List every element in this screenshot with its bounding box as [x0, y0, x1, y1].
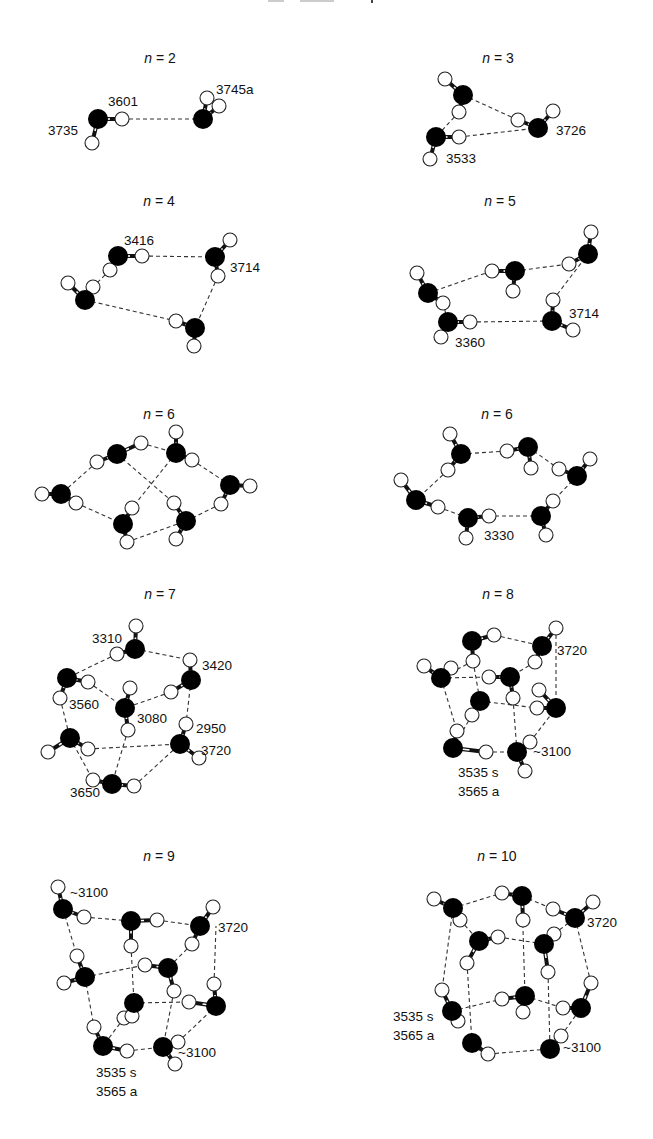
hydrogen-atom: [124, 939, 138, 953]
hydrogen-atom: [35, 487, 49, 501]
oxygen-atom: [470, 691, 490, 711]
hydrogen-atom: [150, 913, 164, 927]
hydrogen-atom: [182, 995, 196, 1009]
hydrogen-atom: [185, 937, 199, 951]
oxygen-atom: [571, 998, 591, 1018]
hydrogen-atom: [434, 330, 448, 344]
oxygen-atom: [565, 908, 585, 928]
frequency-label: 3714: [230, 260, 261, 275]
oxygen-atom: [426, 127, 446, 147]
hydrogen-atom: [495, 886, 509, 900]
oxygen-atom: [515, 986, 535, 1006]
hydrogen-atom: [516, 913, 530, 927]
hydrogen-atom: [200, 91, 214, 105]
oxygen-atom: [518, 437, 538, 457]
hydrogen-atom: [586, 895, 600, 909]
oxygen-atom: [107, 444, 127, 464]
frequency-label: ~3100: [563, 1040, 601, 1055]
hydrogen-atom: [552, 462, 566, 476]
frequency-label: 3720: [201, 743, 231, 758]
oxygen-atom: [567, 466, 587, 486]
frequency-label: 3601: [108, 94, 138, 109]
hydrogen-atom: [541, 965, 555, 979]
hydrogen-atom: [546, 293, 560, 307]
hydrogen-atom: [70, 949, 84, 963]
frequency-label: 3535 s: [96, 1065, 137, 1080]
frequency-label: 3726: [556, 123, 586, 138]
hydrogen-atom: [452, 105, 466, 119]
hydrogen-atom: [214, 497, 228, 511]
frequency-label: 3745a: [216, 82, 254, 97]
frequency-label: 3560: [69, 697, 99, 712]
hydrogen-atom: [135, 249, 149, 263]
hydrogen-atom: [243, 479, 257, 493]
hydrogen-atom: [511, 113, 525, 127]
hydrogen-atom: [206, 900, 220, 914]
hydrogen-atom: [506, 691, 520, 705]
hydrogen-atom: [546, 902, 560, 916]
panel-title: n = 9: [143, 848, 175, 864]
hydrogen-atom: [410, 266, 424, 280]
oxygen-atom: [451, 444, 471, 464]
hydrogen-atom: [435, 983, 449, 997]
frequency-label: 3720: [218, 920, 248, 935]
frequency-label: 3735: [48, 123, 78, 138]
frequency-label: 3565 a: [458, 784, 500, 799]
oxygen-atom: [528, 118, 548, 138]
oxygen-atom: [153, 1037, 173, 1057]
hydrogen-atom: [185, 453, 199, 467]
hydrogen-atom: [539, 528, 553, 542]
hydrogen-atom: [81, 742, 95, 756]
hydrogen-atom: [417, 659, 431, 673]
hydrogen-atom: [463, 315, 477, 329]
hydrogen-atom: [528, 655, 542, 669]
oxygen-atom: [185, 318, 205, 338]
frequency-label: 3720: [587, 915, 617, 930]
frequency-label: 3080: [137, 711, 167, 726]
oxygen-atom: [170, 734, 190, 754]
oxygen-atom: [505, 261, 525, 281]
hydrogen-atom: [466, 654, 480, 668]
hydrogen-atom: [207, 977, 221, 991]
panel-title: n = 5: [484, 193, 516, 209]
frequency-label: 3565 a: [96, 1084, 138, 1099]
oxygen-atom: [125, 639, 145, 659]
oxygen-atom: [75, 290, 95, 310]
panel-title: n = 2: [144, 50, 176, 66]
oxygen-atom: [53, 899, 73, 919]
hydrogen-atom: [81, 675, 95, 689]
hydrogen-atom: [423, 152, 437, 166]
oxygen-atom: [532, 636, 552, 656]
oxygen-atom: [507, 742, 527, 762]
hydrogen-atom: [443, 427, 457, 441]
oxygen-atom: [193, 109, 213, 129]
frequency-label: 3416: [124, 233, 154, 248]
hydrogen-atom: [506, 284, 520, 298]
hydrogen-atom: [57, 976, 71, 990]
hydrogen-atom: [223, 233, 237, 247]
oxygen-atom: [93, 1036, 113, 1056]
hydrogen-atom: [530, 701, 544, 715]
oxygen-atom: [431, 668, 451, 688]
oxygen-atom: [443, 738, 463, 758]
frequency-label: 3720: [557, 643, 587, 658]
panel-title: n = 7: [144, 586, 176, 602]
hydrogen-atom: [482, 670, 496, 684]
hydrogen-atom: [583, 452, 597, 466]
hydrogen-atom: [485, 264, 499, 278]
hydrogen-atom: [120, 1044, 134, 1058]
hydrogen-atom: [123, 681, 137, 695]
oxygen-atom: [443, 898, 463, 918]
hydrogen-atom: [450, 724, 464, 738]
frequency-label: 3533: [446, 151, 476, 166]
hydrogen-atom: [481, 1047, 495, 1061]
hydrogen-atom: [546, 104, 560, 118]
frequency-label: 3535 s: [393, 1009, 434, 1024]
hydrogen-atom: [115, 112, 129, 126]
hydrogen-atom: [562, 257, 576, 271]
hydrogen-atom: [556, 1001, 570, 1015]
hydrogen-atom: [546, 494, 560, 508]
hydrogen-atom: [85, 136, 99, 150]
oxygen-atom: [546, 698, 566, 718]
panel-title: n = 10: [477, 848, 517, 864]
